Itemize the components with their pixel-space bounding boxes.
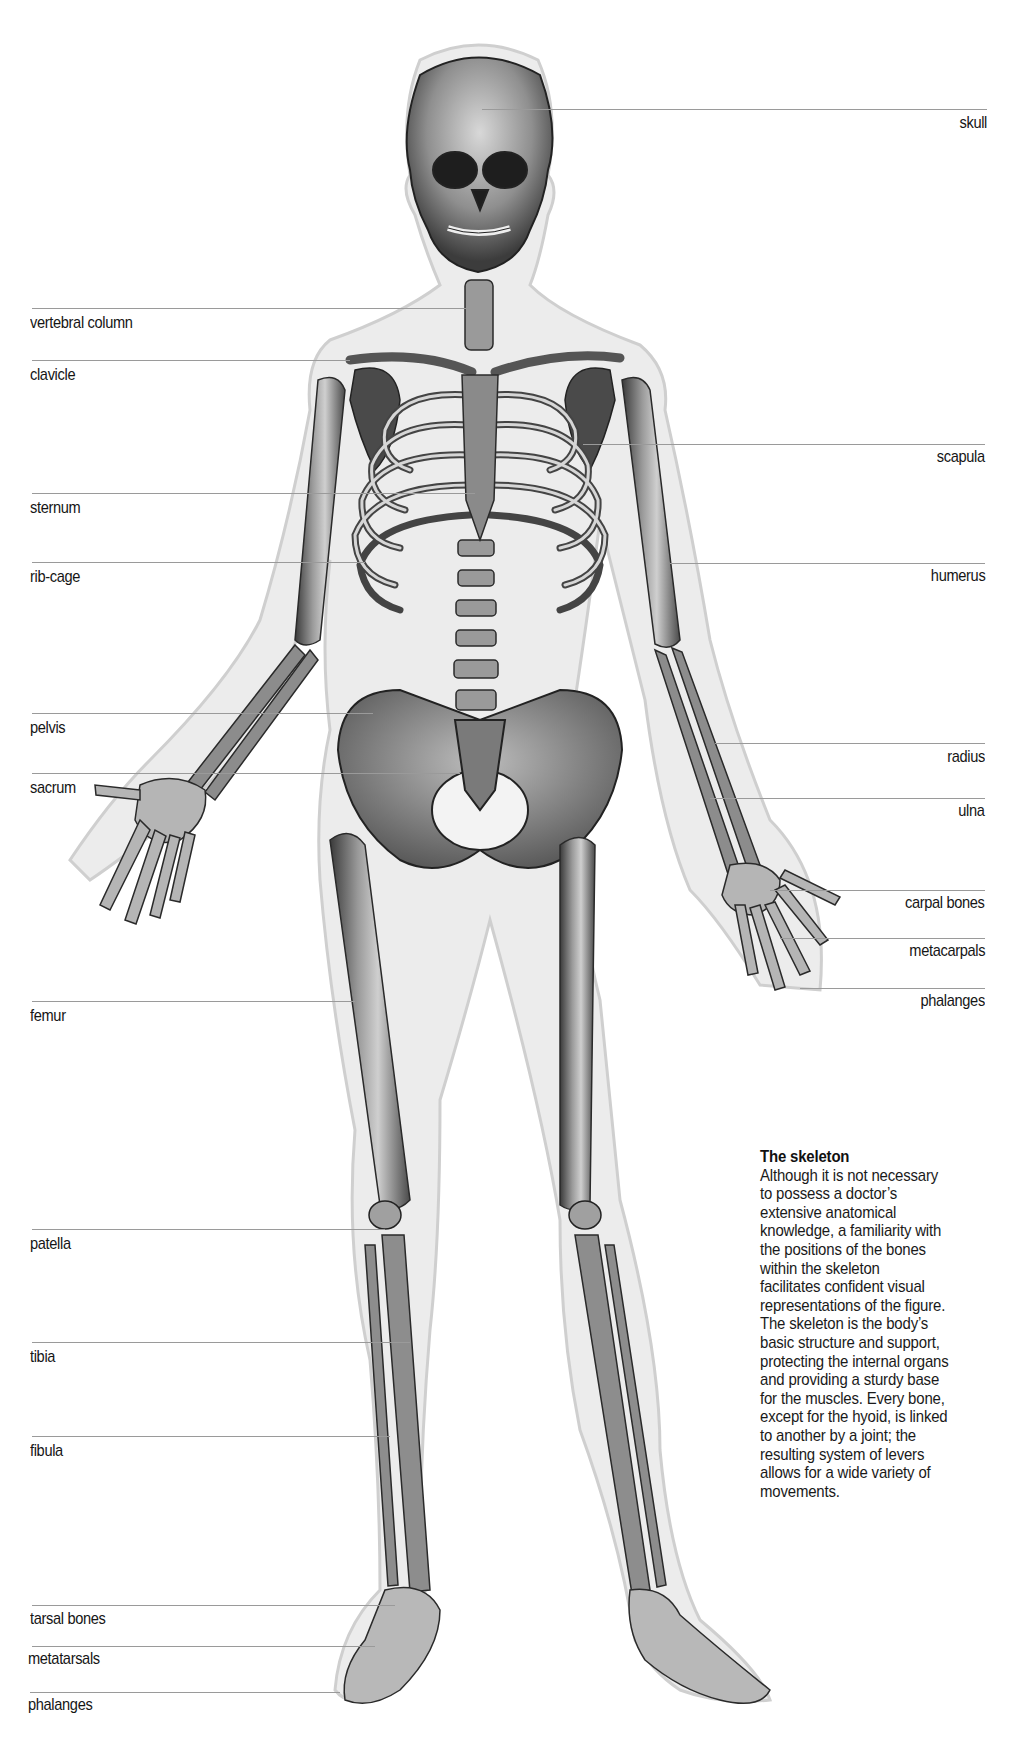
leader-line-clavicle (32, 360, 350, 361)
label-patella: patella (30, 1234, 71, 1254)
leader-line-skull (482, 109, 987, 110)
label-metacarpals: metacarpals (909, 941, 985, 961)
leader-line-radius (715, 743, 985, 744)
caption-line: to possess a doctor’s (760, 1185, 971, 1204)
label-carpal-bones: carpal bones (905, 893, 985, 913)
label-humerus: humerus (931, 566, 985, 586)
leader-line-sternum (32, 493, 475, 494)
caption-line: resulting system of levers (760, 1446, 971, 1465)
caption-line: for the muscles. Every bone, (760, 1390, 971, 1409)
label-sternum: sternum (30, 498, 80, 518)
caption-line: basic structure and support, (760, 1334, 971, 1353)
label-sacrum: sacrum (30, 778, 76, 798)
caption-line: and providing a sturdy base (760, 1371, 971, 1390)
leader-line-fibula (32, 1436, 390, 1437)
leader-line-ulna (710, 798, 985, 799)
leader-line-hand-phalanges (800, 988, 985, 989)
caption-title: The skeleton (760, 1148, 971, 1167)
leader-line-scapula (583, 444, 985, 445)
caption-line: except for the hyoid, is linked (760, 1408, 971, 1427)
caption-line: within the skeleton (760, 1260, 971, 1279)
caption-line: the positions of the bones (760, 1241, 971, 1260)
leader-line-vertebral-column (32, 308, 470, 309)
leader-line-humerus (670, 563, 985, 564)
leader-line-pelvis (32, 713, 373, 714)
label-femur: femur (30, 1006, 66, 1026)
caption-line: allows for a wide variety of (760, 1464, 971, 1483)
leader-line-tarsal-bones (32, 1605, 395, 1606)
caption-line: knowledge, a familiarity with (760, 1222, 971, 1241)
feet (344, 1588, 770, 1704)
caption-line: Although it is not necessary (760, 1167, 971, 1186)
leader-line-metacarpals (780, 938, 985, 939)
label-clavicle: clavicle (30, 365, 75, 385)
label-vertebral-column: vertebral column (30, 313, 133, 333)
label-foot-phalanges: phalanges (28, 1695, 92, 1715)
label-radius: radius (947, 747, 985, 767)
label-fibula: fibula (30, 1441, 63, 1461)
label-pelvis: pelvis (30, 718, 65, 738)
caption-line: extensive anatomical (760, 1204, 971, 1223)
caption-line: movements. (760, 1483, 971, 1502)
label-hand-phalanges: phalanges (921, 991, 985, 1011)
caption-line: representations of the figure. (760, 1297, 971, 1316)
caption-block: The skeleton Although it is not necessar… (760, 1148, 971, 1501)
label-ulna: ulna (959, 801, 985, 821)
leader-line-foot-phalanges (30, 1692, 340, 1693)
leader-line-metatarsals (32, 1646, 375, 1647)
leader-line-carpal-bones (770, 890, 985, 891)
label-rib-cage: rib-cage (30, 567, 80, 587)
caption-line: to another by a joint; the (760, 1427, 971, 1446)
leader-line-femur (32, 1001, 355, 1002)
leader-line-sacrum (32, 773, 460, 774)
leader-line-tibia (32, 1342, 410, 1343)
caption-line: protecting the internal organs (760, 1353, 971, 1372)
leader-line-rib-cage (32, 562, 365, 563)
label-skull: skull (959, 113, 987, 133)
leader-line-patella (32, 1229, 385, 1230)
label-tarsal-bones: tarsal bones (30, 1609, 106, 1629)
caption-line: The skeleton is the body’s (760, 1315, 971, 1334)
skeleton-diagram: vertebral column clavicle sternum rib-ca… (0, 0, 1014, 1761)
label-scapula: scapula (937, 447, 985, 467)
label-metatarsals: metatarsals (28, 1649, 100, 1669)
caption-line: facilitates confident visual (760, 1278, 971, 1297)
label-tibia: tibia (30, 1347, 55, 1367)
